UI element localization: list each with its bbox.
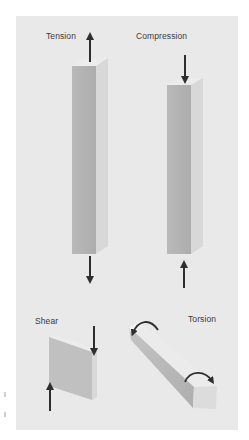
label-compression: Compression <box>136 31 187 41</box>
torsion-bar <box>129 321 217 409</box>
compression-bar <box>167 78 203 254</box>
stress-types-figure <box>0 0 249 440</box>
label-shear: Shear <box>35 316 58 326</box>
label-torsion: Torsion <box>188 314 216 324</box>
label-tension: Tension <box>46 31 76 41</box>
shear-block <box>49 335 97 400</box>
tension-bar <box>72 58 108 254</box>
